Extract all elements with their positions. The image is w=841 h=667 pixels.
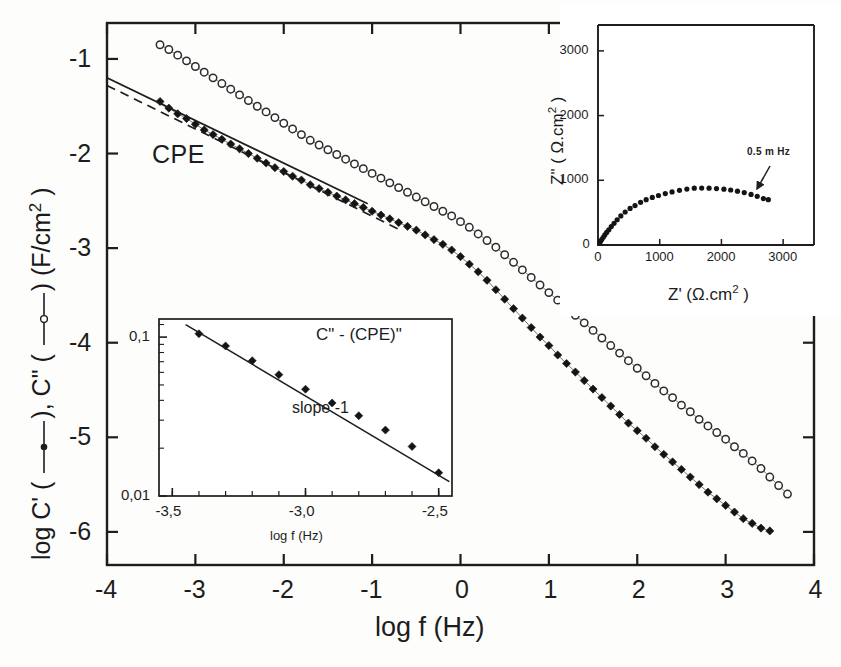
nyq-x-omega: Ω: [692, 285, 705, 304]
nyq-y-tick-0: 0: [582, 236, 589, 251]
inset-cpe-x-tick--3,5: -3,5: [156, 502, 182, 519]
nyq-y-part-3: ): [548, 97, 567, 107]
main-x-tick--2: -2: [272, 575, 294, 604]
main-y-tick-neg5: -5: [69, 422, 91, 451]
y-label-part-4: ): [27, 187, 55, 202]
inset-cpe-x-axis-title: log f (Hz): [270, 528, 323, 543]
inset-cpe-slope-note: slope -1: [292, 399, 349, 417]
y-label-superscript: 2: [26, 203, 45, 212]
main-x-tick-1: 1: [543, 575, 557, 604]
main-y-tick-neg6: -6: [69, 517, 91, 546]
nyq-x-tick-2000: 2000: [707, 249, 736, 264]
nyq-y-superscript: 2: [546, 107, 558, 113]
legend-glyph-filled: [27, 419, 55, 482]
main-y-axis-title: log C' ( ), C" ( ) (F/cm2 ): [26, 187, 56, 560]
nyq-x-part-3: ): [739, 285, 749, 304]
nyq-x-tick-3000: 3000: [768, 249, 797, 264]
inset-cpe-y-tick-0p01: 0,01: [121, 486, 150, 503]
main-x-tick-0: 0: [455, 575, 469, 604]
main-y-tick-neg4: -4: [69, 328, 91, 357]
nyq-x-tick-0: 0: [594, 249, 601, 264]
inset-cpe-x-tick--3,0: -3,0: [289, 502, 315, 519]
y-label-part-2: ), C" (: [27, 354, 55, 418]
legend-glyph-open: [27, 291, 55, 354]
nyq-y-part-2: .cm: [548, 113, 567, 140]
figure-canvas: [0, 0, 841, 667]
cpe-annotation: CPE: [152, 140, 205, 169]
y-label-part-3: ) (F/cm: [27, 212, 55, 291]
inset-cpe-x-tick--2,5: -2,5: [422, 502, 448, 519]
main-x-tick--1: -1: [360, 575, 382, 604]
inset-nyquist-y-axis-title: Z" ( Ω.cm2 ): [546, 97, 568, 185]
inset-cpe-y-tick-0p1: 0,1: [129, 327, 150, 344]
inset-nyquist-frequency-annotation: 0.5 m Hz: [747, 146, 790, 157]
main-x-tick--3: -3: [183, 575, 205, 604]
main-x-tick-3: 3: [720, 575, 734, 604]
main-y-tick-neg2: -2: [69, 139, 91, 168]
main-x-tick--4: -4: [95, 575, 117, 604]
nyq-y-part-1: Z" (: [548, 153, 567, 185]
nyq-x-tick-1000: 1000: [645, 249, 674, 264]
y-label-part-1: log C' (: [27, 482, 55, 560]
nyq-x-part-1: Z' (: [668, 285, 692, 304]
nyq-y-tick-3000: 3000: [560, 42, 589, 57]
nyq-y-omega: Ω: [548, 141, 567, 154]
main-x-axis-title: log f (Hz): [375, 612, 485, 643]
main-x-tick-2: 2: [632, 575, 646, 604]
figure-root: -4-3-2-101234 -1-2-3-4-5-6 log f (Hz) lo…: [0, 0, 841, 667]
main-y-tick-neg3: -3: [69, 233, 91, 262]
main-x-tick-4: 4: [809, 575, 823, 604]
nyq-x-part-2: .cm: [705, 285, 732, 304]
inset-cpe-title: C" - (CPE)": [316, 325, 402, 345]
main-y-tick-neg1: -1: [69, 44, 91, 73]
inset-nyquist-x-axis-title: Z' (Ω.cm2 ): [668, 283, 749, 305]
